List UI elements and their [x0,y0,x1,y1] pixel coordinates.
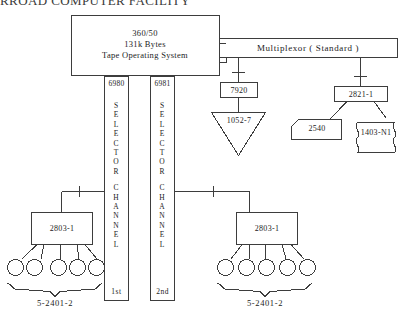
right-drive-stem-3 [265,245,266,260]
left-drive-stem-1 [22,245,37,260]
control-unit-2821-1-box [335,87,388,102]
device-2540-card-shape [292,120,342,140]
multiplexor-box [220,39,398,58]
left-drive-stem-4 [77,245,79,260]
diagram-graphics [0,0,406,316]
right-drive-stem-2 [249,245,250,260]
diagram-canvas: RROAD COMPUTER FACILITY [0,0,406,316]
cpu-box [72,16,220,76]
tape-drive [8,260,24,276]
right-group-brace [218,284,313,297]
tape-drive [239,260,255,276]
tape-drive [89,260,105,276]
tape-drive [27,260,43,276]
tape-drive [280,260,296,276]
selector-channel-6980-box [105,77,129,301]
cu2821-to-1403-line [374,102,386,119]
device-1052-7-triangle [212,113,266,156]
left-group-brace [8,284,103,297]
tape-drive [300,260,316,276]
tape-drive [218,260,234,276]
control-unit-7920-box [221,83,258,98]
tape-drive [70,260,86,276]
selector-channel-6981-box [151,77,175,301]
right-drive-stem-5 [291,245,304,260]
right-drive-stem-1 [231,245,242,260]
left-drive-stem-2 [41,245,44,260]
right-drive-stem-4 [282,245,286,260]
tape-controller-2803-1-right [237,213,298,245]
tape-drive [259,260,275,276]
cu2821-to-2540-line [330,102,347,120]
device-1403-n1-printer-shape [356,123,396,153]
tape-controller-2803-1-left [32,213,93,245]
left-drive-stem-5 [85,245,97,260]
tape-drive [51,260,67,276]
